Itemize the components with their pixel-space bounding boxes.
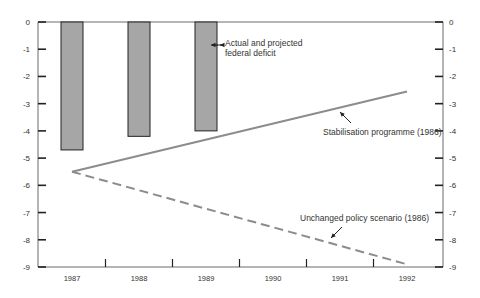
x-tick-label: 1988 — [131, 274, 148, 283]
y-tick-label-right: -2 — [449, 72, 457, 81]
annotation-bar-line2: federal deficit — [225, 48, 276, 58]
y-tick-label-right: 0 — [449, 18, 454, 27]
y-tick-label-left: -1 — [23, 45, 31, 54]
deficit-chart: 00-1-1-2-2-3-3-4-4-5-5-6-6-7-7-8-8-9-919… — [0, 0, 480, 298]
y-tick-label-right: -5 — [449, 154, 457, 163]
y-tick-label-left: -9 — [23, 263, 31, 272]
y-tick-label-left: -4 — [23, 127, 31, 136]
y-tick-label-right: -1 — [449, 45, 457, 54]
deficit-bar — [61, 22, 83, 150]
line-series — [72, 91, 407, 264]
x-tick-label: 1989 — [198, 274, 215, 283]
y-tick-label-left: -8 — [23, 236, 31, 245]
y-tick-label-left: -5 — [23, 154, 31, 163]
deficit-bar — [195, 22, 217, 131]
bar-series — [61, 22, 217, 150]
chart-canvas: 00-1-1-2-2-3-3-4-4-5-5-6-6-7-7-8-8-9-919… — [0, 0, 480, 298]
y-tick-label-right: -6 — [449, 181, 457, 190]
y-tick-label-left: -2 — [23, 72, 31, 81]
y-tick-label-right: -3 — [449, 100, 457, 109]
x-tick-label: 1991 — [332, 274, 349, 283]
y-tick-label-right: -4 — [449, 127, 457, 136]
y-tick-label-left: 0 — [26, 18, 31, 27]
deficit-bar — [128, 22, 150, 136]
annotation-arrows — [211, 43, 351, 238]
x-tick-label: 1990 — [265, 274, 282, 283]
annotations: Actual and projected federal deficit Sta… — [225, 38, 442, 223]
y-tick-label-left: -7 — [23, 209, 31, 218]
annotation-stabilisation: Stabilisation programme (1986) — [323, 127, 442, 137]
annotation-bar-line1: Actual and projected — [225, 38, 303, 48]
y-tick-label-right: -7 — [449, 209, 457, 218]
y-tick-label-left: -6 — [23, 181, 31, 190]
annotation-unchanged: Unchanged policy scenario (1986) — [300, 213, 429, 223]
x-tick-label: 1992 — [399, 274, 416, 283]
y-tick-label-right: -8 — [449, 236, 457, 245]
y-tick-label-right: -9 — [449, 263, 457, 272]
y-tick-label-left: -3 — [23, 100, 31, 109]
x-tick-label: 1987 — [64, 274, 81, 283]
